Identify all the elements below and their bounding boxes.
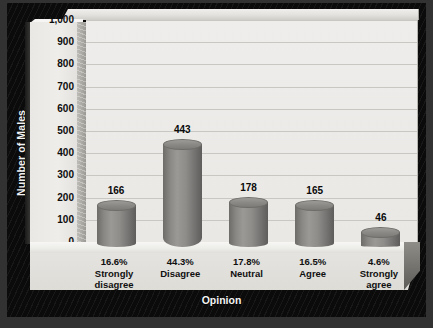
bar-cylinder[interactable] xyxy=(295,205,334,247)
bar-value-label: 443 xyxy=(152,124,212,135)
bar-cylinder-top xyxy=(97,200,136,211)
bar-cylinder-body xyxy=(229,202,268,247)
bar-cylinder-top xyxy=(229,197,268,208)
y-axis-tick-label: 800 xyxy=(30,59,77,69)
gridline xyxy=(86,64,417,65)
bar-cylinder-top xyxy=(163,139,202,150)
category-name-label: disagree xyxy=(74,279,154,291)
bar-cylinder-body xyxy=(163,144,202,247)
y-axis-depth-wall xyxy=(77,22,86,243)
bar-value-label: 178 xyxy=(219,182,279,193)
y-axis-tick-label: 200 xyxy=(30,193,77,203)
bar-cylinder-top xyxy=(295,200,334,211)
y-axis-tick-label: 900 xyxy=(30,37,77,47)
y-axis-tick-label: 100 xyxy=(30,215,77,225)
plot-floor-top xyxy=(30,242,418,254)
bar-value-label: 166 xyxy=(86,185,146,196)
bar-cylinder[interactable] xyxy=(229,202,268,247)
bar-value-label: 165 xyxy=(285,185,345,196)
y-axis-tick-label: 500 xyxy=(30,126,77,136)
x-axis-category-label: 4.6%Stronglyagree xyxy=(339,256,419,291)
bar-value-label: 46 xyxy=(351,212,411,223)
y-axis-tick-label: 700 xyxy=(30,82,77,92)
gridline xyxy=(86,175,417,176)
y-axis-tick-panel: 1,0009008007006005004003002001000 xyxy=(30,22,77,242)
gridline xyxy=(86,153,417,154)
x-axis-title: Opinion xyxy=(0,294,433,306)
gridline xyxy=(86,20,417,21)
bar-cylinder[interactable] xyxy=(361,232,400,247)
plot-top-bevel xyxy=(62,9,419,20)
x-axis-title-label: Opinion xyxy=(202,294,242,306)
y-axis-tick-label: 300 xyxy=(30,170,77,180)
y-axis-tick-label: 600 xyxy=(30,104,77,114)
gridline xyxy=(86,87,417,88)
gridline xyxy=(86,131,417,132)
category-name-label: agree xyxy=(339,279,419,291)
bar-cylinder[interactable] xyxy=(97,205,136,247)
y-axis-tick-label: 1,000 xyxy=(30,15,77,25)
category-percent-label: 4.6% xyxy=(339,256,419,268)
y-axis-tick-label: 400 xyxy=(30,148,77,158)
bar-cylinder-body xyxy=(295,205,334,247)
chart-container: Number of Males 1,0009008007006005004003… xyxy=(0,0,433,328)
gridline xyxy=(86,42,417,43)
bar-cylinder-body xyxy=(97,205,136,247)
bar-cylinder[interactable] xyxy=(163,144,202,247)
gridline xyxy=(86,109,417,110)
category-name-label: Strongly xyxy=(339,268,419,280)
